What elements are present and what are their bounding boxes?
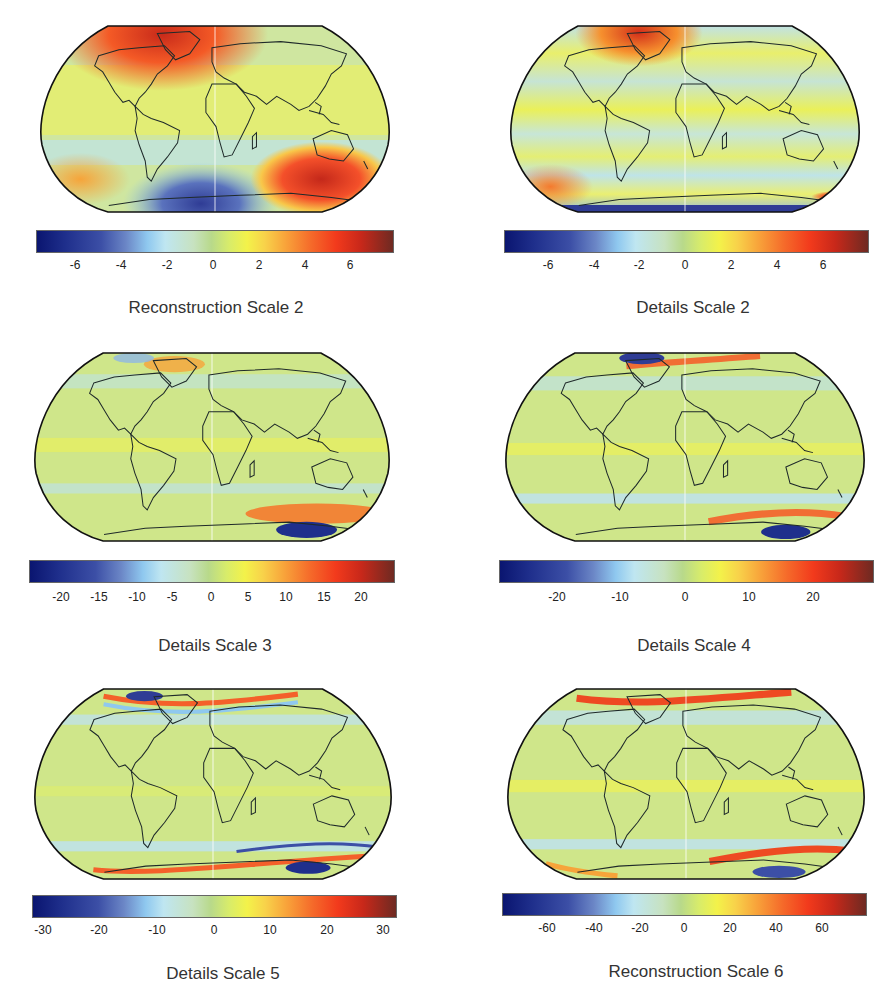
colorbar-tick-label: 10 <box>742 590 755 604</box>
panel-title: Details Scale 2 <box>636 298 749 318</box>
colorbar-tick-label: 20 <box>806 590 819 604</box>
colorbar-tick-label: 4 <box>302 258 309 272</box>
colorbar-tick-label: -4 <box>589 258 600 272</box>
colorbar-tick-label: 20 <box>320 923 333 937</box>
colorbar <box>502 893 867 916</box>
world-map <box>503 352 867 542</box>
colorbar-tick-label: -20 <box>548 590 565 604</box>
colorbar-tick-label: -20 <box>631 921 648 935</box>
colorbar-tick-label: 2 <box>728 258 735 272</box>
colorbar-tick-label: 6 <box>820 258 827 272</box>
colorbar <box>29 560 395 583</box>
colorbar-tick-label: 0 <box>681 921 688 935</box>
colorbar-tick-label: -10 <box>611 590 628 604</box>
colorbar-tick-label: 2 <box>256 258 263 272</box>
colorbar <box>32 895 397 918</box>
world-map <box>38 25 392 213</box>
colorbar-tick-label: -10 <box>128 590 145 604</box>
colorbar-tick-label: 0 <box>210 258 217 272</box>
colorbar-tick-label: -2 <box>162 258 173 272</box>
colorbar-tick-label: -15 <box>90 590 107 604</box>
colorbar-tick-label: 30 <box>376 923 389 937</box>
colorbar <box>499 560 874 583</box>
colorbar-tick-label: -60 <box>538 921 555 935</box>
colorbar <box>36 230 394 253</box>
colorbar-tick-label: -30 <box>34 923 51 937</box>
panel-title: Details Scale 5 <box>166 964 279 984</box>
panel-title: Details Scale 3 <box>158 636 271 656</box>
colorbar <box>504 230 869 253</box>
colorbar-tick-label: 5 <box>245 590 252 604</box>
world-map <box>505 688 867 880</box>
world-map <box>508 25 862 213</box>
colorbar-tick-label: 40 <box>769 921 782 935</box>
colorbar-tick-label: -40 <box>585 921 602 935</box>
colorbar-tick-label: -6 <box>543 258 554 272</box>
colorbar-tick-label: 0 <box>208 590 215 604</box>
colorbar-tick-label: 60 <box>815 921 828 935</box>
colorbar-tick-label: 10 <box>279 590 292 604</box>
panel-title: Reconstruction Scale 2 <box>129 298 304 318</box>
colorbar-tick-label: 0 <box>682 258 689 272</box>
colorbar-tick-label: -4 <box>116 258 127 272</box>
colorbar-tick-label: -20 <box>52 590 69 604</box>
colorbar-tick-label: 15 <box>317 590 330 604</box>
world-map <box>32 688 394 880</box>
colorbar-tick-label: 10 <box>263 923 276 937</box>
colorbar-tick-label: 0 <box>211 923 218 937</box>
colorbar-tick-label: -5 <box>167 590 178 604</box>
colorbar-tick-label: -6 <box>70 258 81 272</box>
colorbar-tick-label: -20 <box>90 923 107 937</box>
colorbar-tick-label: -2 <box>634 258 645 272</box>
colorbar-tick-label: 0 <box>682 590 689 604</box>
world-map <box>32 352 392 542</box>
colorbar-tick-label: 20 <box>723 921 736 935</box>
panel-title: Details Scale 4 <box>637 636 750 656</box>
panel-title: Reconstruction Scale 6 <box>609 962 784 982</box>
colorbar-tick-label: -10 <box>148 923 165 937</box>
colorbar-tick-label: 4 <box>774 258 781 272</box>
colorbar-tick-label: 6 <box>347 258 354 272</box>
colorbar-tick-label: 20 <box>354 590 367 604</box>
